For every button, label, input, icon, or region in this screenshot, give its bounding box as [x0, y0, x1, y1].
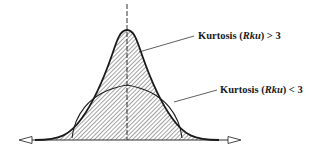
hatched-area	[30, 25, 225, 141]
kurtosis-diagram	[0, 0, 317, 150]
label-low-symbol: Rku	[265, 84, 283, 95]
label-low-prefix: Kurtosis (	[220, 84, 265, 95]
label-high-suffix: ) > 3	[261, 30, 281, 41]
leader-line-high	[139, 36, 194, 52]
left-arrow-icon	[19, 137, 32, 144]
right-arrow-icon	[228, 137, 241, 144]
label-high-symbol: Rku	[243, 30, 261, 41]
label-kurtosis-low: Kurtosis (Rku) < 3	[220, 85, 303, 96]
label-low-suffix: ) < 3	[283, 84, 303, 95]
label-high-prefix: Kurtosis (	[198, 30, 243, 41]
label-kurtosis-high: Kurtosis (Rku) > 3	[198, 31, 281, 42]
leader-line-low	[174, 90, 217, 102]
